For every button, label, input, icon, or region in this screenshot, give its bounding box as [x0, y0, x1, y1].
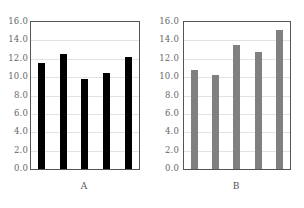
plot-wrapper-a: 16.014.012.010.08.06.04.02.00.0: [0, 0, 152, 176]
y-tick-label: 4.0: [14, 127, 28, 136]
bar-group-b: [184, 22, 290, 169]
y-axis-labels-b: 16.014.012.010.08.06.04.02.00.0: [152, 0, 182, 176]
y-tick-label: 16.0: [159, 17, 179, 26]
bar: [81, 79, 88, 169]
y-tick-label: 10.0: [159, 72, 179, 81]
y-tick-label: 0.0: [165, 164, 179, 173]
y-tick-label: 2.0: [165, 145, 179, 154]
panel-caption-b: B: [183, 182, 289, 191]
y-tick-label: 8.0: [165, 90, 179, 99]
y-tick-label: 10.0: [8, 72, 28, 81]
bar-group-a: [31, 22, 139, 169]
bar: [276, 30, 283, 169]
y-tick-label: 16.0: [8, 17, 28, 26]
chart-panel-a: 16.014.012.010.08.06.04.02.00.0 A: [0, 0, 152, 208]
y-tick-label: 0.0: [14, 164, 28, 173]
plot-wrapper-b: 16.014.012.010.08.06.04.02.00.0: [152, 0, 304, 176]
panel-caption-a: A: [30, 182, 138, 191]
y-tick-label: 12.0: [159, 54, 179, 63]
y-tick-label: 8.0: [14, 90, 28, 99]
bar: [191, 70, 198, 169]
y-tick-label: 6.0: [14, 109, 28, 118]
bar: [103, 73, 110, 169]
bar-chart-figure: 16.014.012.010.08.06.04.02.00.0 A 16.014…: [0, 0, 304, 208]
bar: [125, 57, 132, 169]
y-tick-label: 2.0: [14, 145, 28, 154]
y-tick-label: 14.0: [159, 35, 179, 44]
bar: [255, 52, 262, 169]
y-tick-label: 4.0: [165, 127, 179, 136]
chart-panel-b: 16.014.012.010.08.06.04.02.00.0 B: [152, 0, 304, 208]
y-tick-label: 12.0: [8, 54, 28, 63]
plot-area-a: [30, 21, 140, 170]
y-tick-label: 6.0: [165, 109, 179, 118]
plot-area-b: [183, 21, 291, 170]
bar: [38, 63, 45, 169]
bar: [60, 54, 67, 169]
bar: [212, 75, 219, 169]
bar: [233, 45, 240, 169]
y-tick-label: 14.0: [8, 35, 28, 44]
y-axis-labels-a: 16.014.012.010.08.06.04.02.00.0: [0, 0, 30, 176]
